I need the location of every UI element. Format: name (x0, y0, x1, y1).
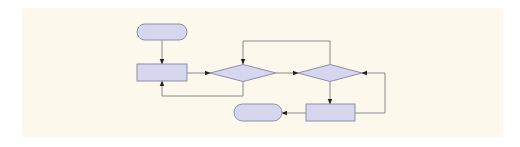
flowchart-canvas (0, 0, 520, 147)
decision-node-decision1 (210, 65, 276, 82)
flowchart-nodes (137, 24, 362, 121)
connector-process2-loop-to-decision2 (355, 73, 385, 113)
terminal-node-end (234, 104, 282, 121)
connector-decision2-loop-to-decision1 (243, 41, 330, 64)
process-node-process2 (306, 104, 355, 121)
decision-node-decision2 (298, 65, 362, 82)
connectors (162, 40, 385, 113)
connector-decision1-loop-to-process1 (162, 81, 243, 96)
process-node-process1 (137, 64, 187, 81)
terminal-node-start (137, 24, 187, 40)
